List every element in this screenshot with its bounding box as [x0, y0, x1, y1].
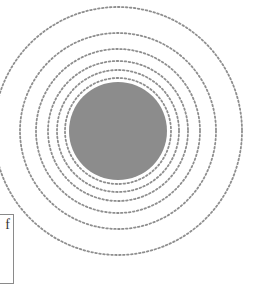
- label-box: f: [0, 214, 14, 284]
- central-disc: [69, 82, 167, 180]
- label-text: f: [5, 217, 10, 233]
